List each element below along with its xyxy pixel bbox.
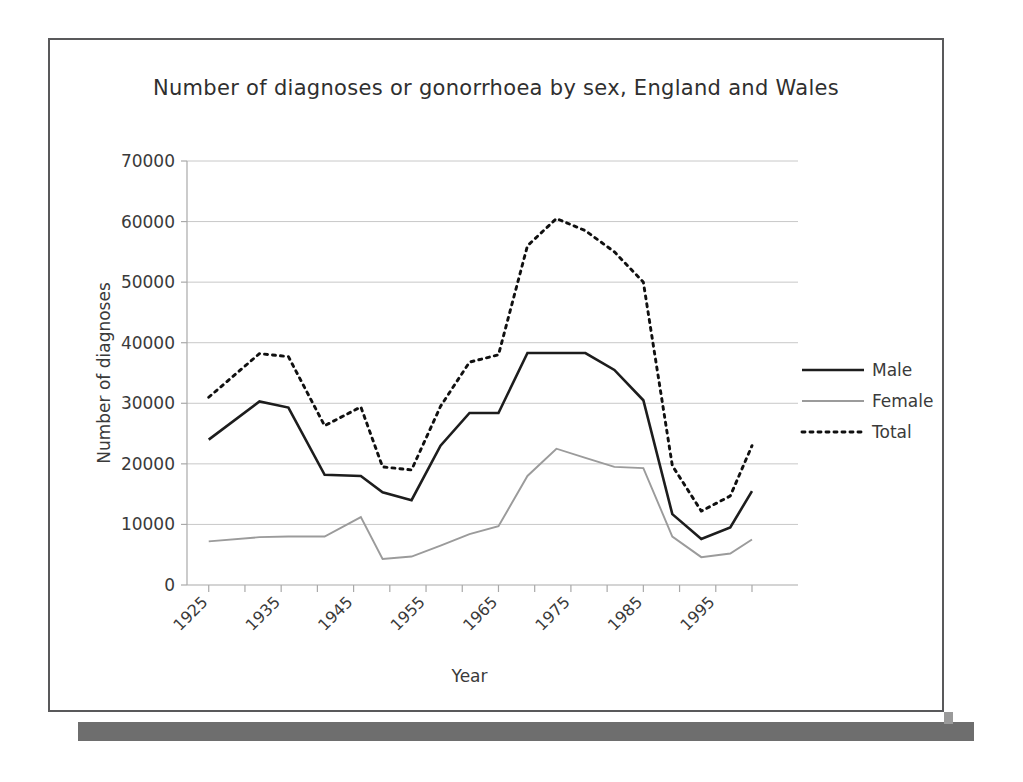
y-tick-label: 50000 bbox=[121, 272, 175, 292]
data-series bbox=[209, 219, 752, 559]
y-axis-ticks bbox=[181, 161, 187, 585]
y-tick-label: 40000 bbox=[121, 333, 175, 353]
y-tick-label: 0 bbox=[164, 575, 175, 595]
x-axis-title: Year bbox=[451, 666, 488, 686]
y-tick-label: 20000 bbox=[121, 454, 175, 474]
x-tick-label: 1975 bbox=[532, 592, 574, 634]
y-axis-title: Number of diagnoses bbox=[94, 282, 114, 464]
figure-frame: Number of diagnoses or gonorrhoea by sex… bbox=[48, 38, 944, 712]
x-tick-label: 1965 bbox=[459, 592, 501, 634]
chart-legend: MaleFemaleTotal bbox=[802, 360, 933, 442]
axis-lines bbox=[187, 161, 798, 585]
y-tick-label: 30000 bbox=[121, 393, 175, 413]
x-axis-tick-labels: 19251935194519551965197519851995 bbox=[169, 592, 718, 634]
x-tick-label: 1995 bbox=[676, 592, 718, 634]
y-tick-label: 60000 bbox=[121, 212, 175, 232]
x-tick-label: 1945 bbox=[314, 592, 356, 634]
y-axis-tick-labels: 010000200003000040000500006000070000 bbox=[121, 151, 175, 595]
scanned-page: Number of diagnoses or gonorrhoea by sex… bbox=[0, 0, 1023, 782]
x-tick-label: 1925 bbox=[169, 592, 211, 634]
legend-label-female: Female bbox=[872, 391, 933, 411]
page-shadow-bar bbox=[78, 722, 974, 741]
legend-label-male: Male bbox=[872, 360, 912, 380]
x-axis-ticks bbox=[209, 585, 752, 592]
y-tick-label: 10000 bbox=[121, 514, 175, 534]
series-line-total bbox=[209, 219, 752, 512]
line-chart: 010000200003000040000500006000070000 192… bbox=[50, 40, 946, 714]
x-tick-label: 1955 bbox=[387, 592, 429, 634]
legend-label-total: Total bbox=[871, 422, 912, 442]
gridlines bbox=[187, 161, 798, 524]
x-tick-label: 1935 bbox=[242, 592, 284, 634]
y-tick-label: 70000 bbox=[121, 151, 175, 171]
x-tick-label: 1985 bbox=[604, 592, 646, 634]
